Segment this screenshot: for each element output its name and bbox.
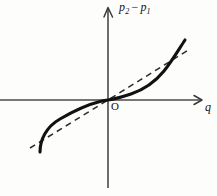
x-axis-label: q (205, 101, 211, 113)
math-graph-figure: p2−p1 q O (0, 0, 217, 196)
y-axis-label-subscript-2: 1 (147, 7, 151, 16)
origin-label: O (111, 101, 119, 112)
graph-canvas (0, 0, 217, 196)
y-axis-label: p2−p1 (119, 1, 151, 16)
curve-p2-minus-p1 (40, 40, 185, 152)
y-axis-label-operator: − (129, 0, 140, 14)
